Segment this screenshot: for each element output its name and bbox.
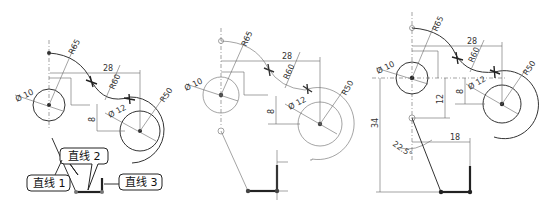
point bbox=[275, 189, 279, 193]
dim-r50: R50 bbox=[521, 59, 537, 77]
point bbox=[100, 190, 104, 194]
panel-1: R65 28 R60 R50 Ø 10 Ø 12 8 直线 2 直线 1 直线 … bbox=[14, 38, 175, 194]
tangent-marker-1 bbox=[86, 76, 97, 87]
point bbox=[439, 190, 443, 194]
dim-dia12: Ø 12 bbox=[286, 94, 307, 112]
dim-28: 28 bbox=[103, 64, 113, 73]
callout-line2-label: 直线 2 bbox=[68, 149, 101, 163]
dim-8: 8 bbox=[88, 117, 97, 122]
line-1 bbox=[221, 131, 248, 191]
dim-28: 28 bbox=[467, 37, 477, 46]
dim-34: 34 bbox=[371, 118, 380, 128]
dim-r65: R65 bbox=[67, 38, 82, 56]
dim-angle: 22.5° bbox=[391, 139, 414, 159]
construction-lines bbox=[221, 72, 268, 95]
panel-2: R65 28 R60 R50 Ø 10 Ø 12 8 bbox=[183, 28, 356, 200]
dim-12: 12 bbox=[436, 94, 445, 104]
dim-8: 8 bbox=[267, 109, 276, 114]
callout-line3-label: 直线 3 bbox=[125, 175, 158, 189]
cad-sketch-figure: R65 28 R60 R50 Ø 10 Ø 12 8 直线 2 直线 1 直线 … bbox=[0, 0, 548, 218]
dim-r65: R65 bbox=[240, 30, 255, 48]
line-1 bbox=[412, 118, 441, 192]
dim-r50: R50 bbox=[158, 86, 174, 104]
dim-r60: R60 bbox=[467, 46, 482, 64]
callout-pointer-1 bbox=[55, 160, 62, 175]
tangent-marker-2 bbox=[124, 94, 135, 104]
dim-r65: R65 bbox=[431, 15, 446, 33]
dim-dia12: Ø 12 bbox=[466, 74, 487, 92]
arc-r50 bbox=[130, 97, 164, 163]
dim-18: 18 bbox=[450, 133, 460, 142]
leader-r50 bbox=[502, 69, 526, 104]
dim-28: 28 bbox=[282, 52, 292, 61]
construction-lines bbox=[412, 51, 438, 78]
dim-dia10: Ø 10 bbox=[14, 87, 35, 104]
tangent-marker-2 bbox=[303, 84, 312, 94]
dim-r50: R50 bbox=[340, 79, 356, 97]
point bbox=[246, 189, 250, 193]
dim-dia10: Ø 10 bbox=[183, 76, 204, 93]
panel-3: R65 28 R60 R50 Ø 10 Ø 12 8 12 34 18 22.5… bbox=[371, 12, 538, 194]
callout-line1-label: 直线 1 bbox=[33, 176, 66, 190]
dim-dia12: Ø 12 bbox=[106, 102, 127, 120]
dim-8: 8 bbox=[456, 89, 465, 94]
point bbox=[74, 190, 78, 194]
arc-r50 bbox=[305, 88, 354, 160]
arc-end bbox=[310, 159, 312, 160]
s-curve bbox=[412, 28, 495, 72]
point bbox=[468, 190, 472, 194]
dim-r60: R60 bbox=[108, 73, 123, 91]
